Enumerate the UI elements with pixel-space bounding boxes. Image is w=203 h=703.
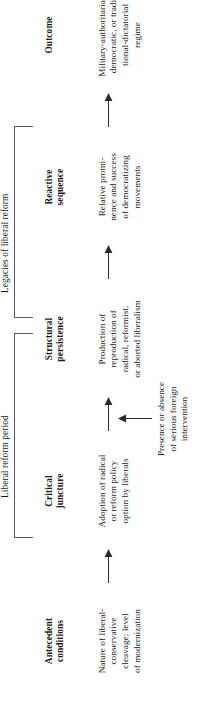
bracket-liberal-reform-period <box>14 333 33 538</box>
stage-body-line: Military-authoritarian, <box>97 0 109 95</box>
stage-body-outcome: Military-authoritarian, democratic, or t… <box>97 0 143 95</box>
stage-title-antecedent-conditions: Antecedent conditions <box>44 589 67 693</box>
stage-body-antecedent-conditions: Nature of liberal- conservative cleavage… <box>97 589 143 693</box>
stage-body-line: Production of <box>97 287 109 391</box>
stage-body-structural-persistence: Production of reproduction of radical, r… <box>97 287 143 391</box>
stage-body-line: Nature of liberal- <box>97 589 109 693</box>
arrow-foreign-intervention-in <box>118 414 152 423</box>
stage-body-line: democratic, or tradi- <box>108 0 120 95</box>
stage-title-line: Reactive <box>44 135 55 239</box>
side-note-line: of serious foreign <box>168 367 180 471</box>
stage-antecedent-conditions: Antecedent conditions Nature of liberal-… <box>44 589 143 693</box>
stage-title-line: juncture <box>55 439 66 543</box>
side-note-line: intervention <box>179 367 191 471</box>
group-label-legacies-of-liberal-reform: Legacies of liberal reform <box>0 194 10 293</box>
stage-title-structural-persistence: Structural persistence <box>44 287 67 391</box>
figure-canvas: Liberal reform period Legacies of libera… <box>0 0 203 703</box>
stage-title-line: Structural <box>44 287 55 391</box>
arrow-reactive-to-outcome <box>104 93 113 127</box>
stage-reactive-sequence: Reactive sequence Relative promi- nence … <box>44 135 143 239</box>
figure-frame: Liberal reform period Legacies of libera… <box>0 0 203 703</box>
stage-title-outcome: Outcome <box>44 0 55 95</box>
stage-title-critical-juncture: Critical juncture <box>44 439 67 543</box>
stage-title-line: sequence <box>55 135 66 239</box>
arrow-critical-to-structural <box>104 397 113 431</box>
stage-title-line: Critical <box>44 439 55 543</box>
stage-critical-juncture: Critical juncture Adoption of radical or… <box>44 439 132 543</box>
stage-body-line: Adoption of radical <box>97 439 109 543</box>
stage-body-line: or aborted liberalism <box>132 287 144 391</box>
stage-body-line: tional-dictatorial <box>120 0 132 95</box>
stage-body-line: nence and success <box>108 135 120 239</box>
stage-body-line: or reform policy <box>108 439 120 543</box>
bracket-legacies-of-liberal-reform <box>14 126 33 318</box>
stage-body-line: movements <box>132 135 144 239</box>
stage-body-line: of democratizing <box>120 135 132 239</box>
stage-body-line: cleavage; level <box>120 589 132 693</box>
stage-body-line: reproduction of <box>108 287 120 391</box>
stage-body-line: of modernization <box>132 589 144 693</box>
stage-body-reactive-sequence: Relative promi- nence and success of dem… <box>97 135 143 239</box>
stage-title-line: persistence <box>55 287 66 391</box>
stage-body-line: option by liberals <box>120 439 132 543</box>
stage-body-line: radical, reformist, <box>120 287 132 391</box>
group-label-liberal-reform-period: Liberal reform period <box>0 415 10 498</box>
stage-body-line: conservative <box>108 589 120 693</box>
stage-structural-persistence: Structural persistence Production of rep… <box>44 287 143 391</box>
stage-title-line: conditions <box>55 589 66 693</box>
arrow-structural-to-reactive <box>104 245 113 279</box>
side-note-line: Presence or absence <box>156 367 168 471</box>
stage-title-line: Outcome <box>44 0 55 95</box>
stage-title-reactive-sequence: Reactive sequence <box>44 135 67 239</box>
stage-body-line: Relative promi- <box>97 135 109 239</box>
stage-outcome: Outcome Military-authoritarian, democrat… <box>44 0 143 95</box>
arrow-antecedent-to-critical <box>104 549 113 583</box>
side-note-foreign-intervention: Presence or absence of serious foreign i… <box>156 367 191 471</box>
stage-title-line: Antecedent <box>44 589 55 693</box>
stage-body-critical-juncture: Adoption of radical or reform policy opt… <box>97 439 132 543</box>
stage-body-line: regime <box>132 0 144 95</box>
